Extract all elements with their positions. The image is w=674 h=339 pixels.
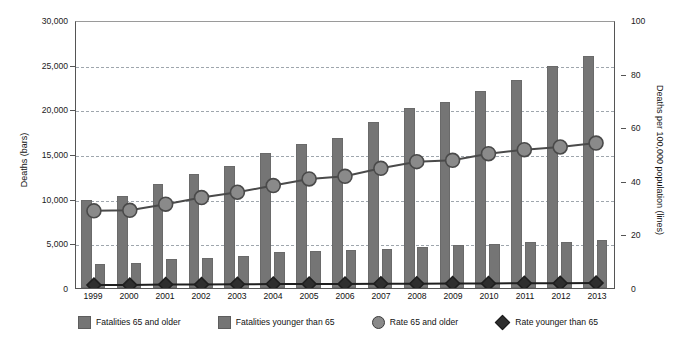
marker-rate-65-and-older [338, 169, 352, 183]
marker-rate-younger-than-65 [266, 277, 280, 288]
x-axis-labels: 1999200020012002200320042005200620072008… [75, 291, 615, 307]
left-axis-tick-label: 30,000 [6, 16, 68, 26]
right-axis-tick-label: 80 [631, 70, 641, 80]
x-axis-tick-label: 2011 [507, 291, 543, 307]
marker-rate-younger-than-65 [446, 277, 460, 288]
marker-rate-65-and-older [87, 204, 101, 218]
marker-rate-younger-than-65 [589, 276, 603, 288]
marker-rate-65-and-older [302, 172, 316, 186]
marker-rate-younger-than-65 [159, 278, 173, 288]
legend-item[interactable]: Rate 65 and older [372, 316, 458, 329]
legend-label: Fatalities younger than 65 [236, 317, 335, 327]
right-axis-tick-mark [621, 128, 626, 129]
circle-marker-icon [372, 316, 385, 329]
marker-rate-younger-than-65 [481, 277, 495, 288]
marker-rate-65-and-older [589, 136, 603, 150]
marker-rate-65-and-older [230, 185, 244, 199]
marker-rate-65-and-older [266, 179, 280, 193]
right-axis-tick-mark [621, 235, 626, 236]
diamond-marker-icon [495, 314, 511, 330]
square-swatch-icon [218, 316, 231, 329]
right-axis-tick-mark [621, 75, 626, 76]
x-axis-tick-label: 2009 [435, 291, 471, 307]
marker-rate-65-and-older [517, 143, 531, 157]
right-axis-tick-label: 100 [631, 16, 645, 26]
marker-rate-younger-than-65 [230, 277, 244, 288]
x-axis-tick-label: 2010 [471, 291, 507, 307]
x-axis-tick-label: 1999 [75, 291, 111, 307]
marker-rate-65-and-older [481, 147, 495, 161]
marker-rate-65-and-older [123, 203, 137, 217]
legend-item[interactable]: Fatalities 65 and older [78, 316, 181, 329]
chart-legend: Fatalities 65 and olderFatalities younge… [78, 311, 598, 333]
marker-rate-younger-than-65 [517, 276, 531, 288]
legend-label: Fatalities 65 and older [96, 317, 181, 327]
marker-rate-65-and-older [410, 155, 424, 169]
marker-rate-younger-than-65 [338, 277, 352, 288]
marker-rate-younger-than-65 [302, 277, 316, 288]
right-axis-title: Deaths per 100,000 population (lines) [655, 60, 665, 260]
marker-rate-younger-than-65 [87, 278, 101, 288]
x-axis-tick-label: 2013 [579, 291, 615, 307]
legend-label: Rate younger than 65 [515, 317, 598, 327]
marker-rate-younger-than-65 [374, 277, 388, 288]
chart-container: Fall deaths and death rates, 1999-2013 3… [0, 0, 674, 339]
left-axis-tick-label: 10,000 [6, 195, 68, 205]
left-axis-tick-label: 15,000 [6, 150, 68, 160]
legend-label: Rate 65 and older [390, 317, 458, 327]
marker-rate-65-and-older [195, 191, 209, 205]
right-axis-tick-label: 60 [631, 123, 641, 133]
right-axis-tick-mark [621, 182, 626, 183]
marker-rate-younger-than-65 [195, 278, 209, 288]
left-axis-title: Deaths (bars) [19, 90, 29, 230]
x-axis-tick-label: 2008 [399, 291, 435, 307]
marker-rate-younger-than-65 [123, 278, 137, 288]
marker-rate-65-and-older [159, 197, 173, 211]
legend-item[interactable]: Fatalities younger than 65 [218, 316, 335, 329]
x-axis-tick-label: 2007 [363, 291, 399, 307]
marker-rate-younger-than-65 [410, 277, 424, 288]
marker-rate-younger-than-65 [553, 276, 567, 288]
x-axis-tick-label: 2012 [543, 291, 579, 307]
left-axis-labels: 30,00025,00020,00015,00010,0005,0000 [0, 0, 68, 339]
right-axis-tick-label: 40 [631, 177, 641, 187]
square-swatch-icon [78, 316, 91, 329]
right-axis-tick-label: 20 [631, 230, 641, 240]
plot-area [75, 21, 615, 289]
x-axis-tick-label: 2002 [183, 291, 219, 307]
x-axis-tick-label: 2000 [111, 291, 147, 307]
legend-item[interactable]: Rate younger than 65 [495, 316, 598, 329]
marker-rate-65-and-older [553, 140, 567, 154]
x-axis-tick-label: 2004 [255, 291, 291, 307]
marker-rate-65-and-older [446, 153, 460, 167]
right-axis-tick-label: 0 [631, 284, 636, 294]
x-axis-tick-label: 2001 [147, 291, 183, 307]
left-axis-tick-label: 5,000 [6, 239, 68, 249]
x-axis-tick-label: 2003 [219, 291, 255, 307]
left-axis-tick-label: 20,000 [6, 105, 68, 115]
x-axis-tick-label: 2005 [291, 291, 327, 307]
left-axis-tick-label: 0 [6, 284, 68, 294]
x-axis-tick-label: 2006 [327, 291, 363, 307]
marker-rate-65-and-older [374, 161, 388, 175]
left-axis-tick-label: 25,000 [6, 61, 68, 71]
rate-lines-layer [76, 22, 614, 288]
